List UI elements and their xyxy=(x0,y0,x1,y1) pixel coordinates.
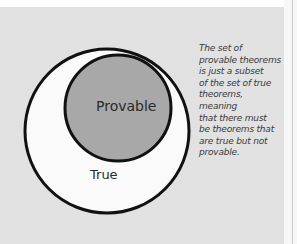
annotation-text: The set of provable theorems is just a s… xyxy=(199,43,283,159)
annotation-line: is just a subset xyxy=(199,66,283,78)
annotation-line: provable. xyxy=(199,147,283,159)
annotation-line: The set of xyxy=(199,43,283,55)
annotation-line: that there must xyxy=(199,113,283,125)
annotation-line: of the set of true xyxy=(199,78,283,90)
annotation-line: provable theorems xyxy=(199,55,283,67)
annotation-line: are true but not xyxy=(199,136,283,148)
annotation-line: be theorems that xyxy=(199,124,283,136)
true-label: True xyxy=(90,167,118,182)
annotation-line: theorems, meaning xyxy=(199,89,283,112)
provable-label: Provable xyxy=(96,98,156,114)
